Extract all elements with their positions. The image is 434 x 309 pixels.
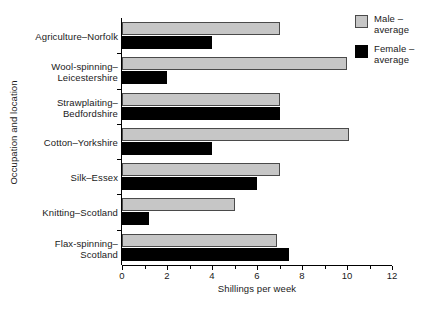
bar-female xyxy=(122,212,149,225)
x-axis-tick-label: 2 xyxy=(155,270,179,281)
x-axis-tick-label: 0 xyxy=(110,270,134,281)
x-axis-tick-label: 10 xyxy=(335,270,359,281)
category-label-line2: Leicestershire xyxy=(20,72,118,83)
bar-male xyxy=(122,234,277,247)
x-axis-minor-tick xyxy=(145,266,146,269)
category-label-line1: Flax-spinning– xyxy=(55,238,118,249)
x-axis-minor-tick xyxy=(280,266,281,269)
category-label: Strawplaiting–Bedfordshire xyxy=(20,97,118,119)
bar-male xyxy=(122,22,280,35)
category-label-line1: Cotton–Yorkshire xyxy=(44,137,118,148)
x-axis-title: Shillings per week xyxy=(122,283,392,294)
legend-label-line2: average xyxy=(374,25,409,36)
category-label: Wool-spinning–Leicestershire xyxy=(20,61,118,83)
category-label-line1: Strawplaiting– xyxy=(57,97,118,108)
legend-label: Male –average xyxy=(374,14,409,35)
category-label: Flax-spinning–Scotland xyxy=(20,238,118,260)
x-axis-minor-tick xyxy=(325,266,326,269)
bar-female xyxy=(122,36,212,49)
category-labels: Agriculture–NorfolkWool-spinning–Leicest… xyxy=(20,18,118,265)
x-axis-tick-label: 8 xyxy=(290,270,314,281)
legend-label: Female –average xyxy=(374,44,414,65)
legend: Male –averageFemale –average xyxy=(355,14,433,74)
x-axis-tick-label: 4 xyxy=(200,270,224,281)
legend-label-line1: Male – xyxy=(374,13,403,24)
x-axis-minor-tick xyxy=(190,266,191,269)
category-label-line1: Silk–Essex xyxy=(71,172,118,183)
bar-chart: Occupation and location Agriculture–Norf… xyxy=(0,0,434,309)
bar-female xyxy=(122,71,167,84)
legend-swatch-female xyxy=(355,45,368,58)
bar-male xyxy=(122,93,280,106)
bar-female xyxy=(122,177,257,190)
category-label-line1: Wool-spinning– xyxy=(51,61,118,72)
x-axis-tick-label: 12 xyxy=(380,270,404,281)
bar-male xyxy=(122,57,347,70)
category-label-line1: Knitting–Scotland xyxy=(42,207,118,218)
x-axis-minor-tick xyxy=(370,266,371,269)
x-axis-tick-label: 6 xyxy=(245,270,269,281)
bar-male xyxy=(122,128,349,141)
bar-female xyxy=(122,142,212,155)
legend-item: Male –average xyxy=(355,14,433,35)
legend-item: Female –average xyxy=(355,44,433,65)
bar-female xyxy=(122,248,289,261)
x-axis-minor-tick xyxy=(235,266,236,269)
category-label-line2: Scotland xyxy=(20,249,118,260)
bar-male xyxy=(122,163,280,176)
y-axis-title-text: Occupation and location xyxy=(8,80,19,184)
bar-female xyxy=(122,107,280,120)
category-label-line2: Bedfordshire xyxy=(20,108,118,119)
category-label: Agriculture–Norfolk xyxy=(20,31,118,42)
bar-male xyxy=(122,198,235,211)
legend-swatch-male xyxy=(355,15,368,28)
category-label: Silk–Essex xyxy=(20,172,118,183)
category-label-line1: Agriculture–Norfolk xyxy=(35,31,118,42)
category-label: Knitting–Scotland xyxy=(20,207,118,218)
legend-label-line1: Female – xyxy=(374,43,414,54)
category-label: Cotton–Yorkshire xyxy=(20,137,118,148)
legend-label-line2: average xyxy=(374,55,414,66)
